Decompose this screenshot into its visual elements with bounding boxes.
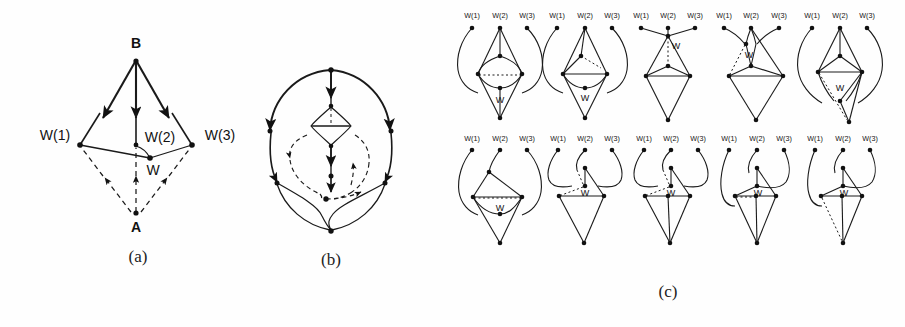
label-w1: W(1) bbox=[40, 127, 70, 143]
variant-7-dotted-a bbox=[577, 170, 583, 184]
variant-8-e5 bbox=[645, 196, 670, 243]
label-w2: W(2) bbox=[145, 129, 175, 145]
variant-6-vertex-upper bbox=[487, 170, 492, 175]
variant-2-vertex-bottom bbox=[583, 116, 588, 121]
vertex-b-diamond-bottom bbox=[329, 144, 334, 149]
variant-7-dotted-b bbox=[559, 187, 583, 196]
variant-10-vertex-upper bbox=[841, 166, 846, 171]
variant-7-vertex-w3 bbox=[610, 148, 615, 153]
edge-b-dashed-right-lower bbox=[352, 163, 369, 192]
variant-10-vertex-w3 bbox=[868, 148, 873, 153]
variant-5-vertex-upper bbox=[838, 54, 843, 59]
variant-1-vertex-w1 bbox=[470, 26, 475, 31]
variant-4-label-w1: W(1) bbox=[716, 11, 732, 20]
edge-b-to-w1-arrow bbox=[103, 62, 135, 118]
variant-6-vertex-left bbox=[471, 195, 476, 200]
variant-8-vertex-left bbox=[643, 194, 648, 199]
variant-4-e4 bbox=[751, 28, 756, 44]
variant-10-label-w3: W(3) bbox=[862, 134, 878, 143]
variant-7-e6 bbox=[584, 196, 604, 243]
variant-10-vertex-right bbox=[860, 194, 865, 199]
variant-2-vertex-right bbox=[605, 72, 610, 77]
variant-8-vertex-upper bbox=[669, 166, 674, 171]
variant-9-vertex-upper bbox=[755, 166, 760, 171]
variant-5-e10 bbox=[840, 101, 849, 122]
variant-6-vertex-bottom bbox=[498, 241, 503, 246]
variant-1-vertex-right bbox=[520, 72, 525, 77]
variant-5-e7 bbox=[818, 72, 834, 101]
variant-10-e7 bbox=[842, 196, 843, 243]
variant-1-vertex-bottom bbox=[498, 116, 503, 121]
edge-b-to-w3-arrow bbox=[137, 62, 169, 118]
variant-8-vertex-right bbox=[688, 194, 693, 199]
variant-10-dotted bbox=[822, 198, 842, 241]
variant-6-vertex-w2 bbox=[498, 148, 503, 153]
variant-5-label-w2: W(2) bbox=[832, 11, 848, 20]
edge-b-dashed-left-upper bbox=[290, 135, 307, 158]
variant-4-vertex-w bbox=[744, 42, 749, 47]
edge-b-outer-right-lower bbox=[332, 184, 385, 230]
edge-b-outer-left-upper bbox=[270, 70, 330, 130]
edge-a-to-w1-tail bbox=[81, 147, 103, 176]
variant-10-e6 bbox=[843, 196, 862, 243]
variant-8-label-w2: W(2) bbox=[663, 134, 679, 143]
variant-6-label-w1: W(1) bbox=[464, 134, 480, 143]
variant-5-vertex-w2 bbox=[838, 26, 843, 31]
variant-9-e6 bbox=[735, 196, 757, 243]
variant-5-e4 bbox=[818, 56, 840, 72]
variant-9-hook-right bbox=[757, 150, 789, 188]
vertex-w2 bbox=[134, 143, 139, 148]
variant-3-vertex-upper bbox=[666, 64, 671, 69]
variant-1-vertex-w3 bbox=[525, 26, 530, 31]
variant-7-label-w3: W(3) bbox=[604, 134, 620, 143]
variant-10-hook-right bbox=[843, 150, 875, 188]
variant-6-e3 bbox=[489, 172, 522, 197]
variant-2-vertex-upper bbox=[579, 54, 584, 59]
variant-4-vertex-w1 bbox=[722, 26, 727, 31]
edge-b-dashed-right-upper bbox=[355, 135, 369, 163]
variant-9-label-w1: W(1) bbox=[721, 134, 737, 143]
variant-6-hook-left bbox=[459, 150, 478, 215]
variant-3-label-w: W bbox=[672, 41, 681, 51]
variant-7-vertex-w2 bbox=[583, 148, 588, 153]
edge-b-outer-right-mid bbox=[385, 133, 392, 182]
variant-8-vertex-w3 bbox=[696, 148, 701, 153]
variant-1-label-w1: W(1) bbox=[464, 11, 480, 20]
panel-c-variant-7: W(1) W(2) W(3) W bbox=[548, 134, 622, 245]
panel-c-variant-2: W(1) W(2) W(3) W bbox=[543, 11, 628, 120]
variant-3-e1 bbox=[641, 28, 668, 36]
variant-3-vertex-left bbox=[644, 74, 649, 79]
figure-canvas: B W(1) W(2) W(3) W A (a) bbox=[0, 0, 905, 327]
edge-b-dashed-left-tip bbox=[320, 194, 322, 200]
variant-8-e7 bbox=[668, 196, 670, 243]
variant-5-vertex-bottom bbox=[847, 120, 852, 125]
variant-5-label-w3: W(3) bbox=[859, 11, 875, 20]
variant-10-label-w1: W(1) bbox=[807, 134, 823, 143]
variant-3-e9 bbox=[646, 76, 668, 120]
variant-3-e2 bbox=[668, 28, 695, 36]
variant-3-vertex-w bbox=[666, 34, 671, 39]
vertex-b-top bbox=[328, 67, 333, 72]
variant-5-e11 bbox=[849, 72, 862, 122]
variant-9-vertex-w1 bbox=[727, 148, 732, 153]
variant-1-vertex-w2 bbox=[498, 26, 503, 31]
panel-a-dashed-edges bbox=[81, 147, 191, 212]
panel-c-variant-8: W(1) W(2) W(3) W bbox=[634, 134, 708, 245]
variant-2-label-w: W bbox=[581, 93, 590, 103]
edge-b-dashed-left-lower bbox=[290, 160, 320, 194]
vertex-b-right-upper bbox=[389, 129, 394, 134]
variant-7-hook-right bbox=[598, 150, 622, 187]
variant-4-vertex-left bbox=[727, 74, 732, 79]
variant-6-vertex-w3 bbox=[525, 148, 530, 153]
variant-1-vertex-w bbox=[498, 86, 503, 91]
vertex-b-diamond-top bbox=[329, 104, 334, 109]
variant-1-label-w: W bbox=[496, 95, 505, 105]
label-b: B bbox=[131, 35, 141, 51]
variant-1-vertex-upper bbox=[498, 54, 503, 59]
panel-b-graph bbox=[268, 67, 394, 233]
variant-7-label-w2: W(2) bbox=[577, 134, 593, 143]
panel-c-variant-3: W(1) W(2) W(3) W bbox=[633, 11, 703, 122]
panel-c-variant-9: W(1) W(2) W(3) W bbox=[721, 134, 792, 245]
panel-c-variant-5: W(1) W(2) W(3) W bbox=[798, 11, 883, 124]
variant-5-vertex-w1 bbox=[810, 26, 815, 31]
